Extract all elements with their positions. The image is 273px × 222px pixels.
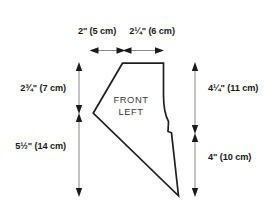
- pattern-diagram: 2" (5 cm) 2¼" (6 cm) 2¾" (7 cm) 5½" (14 …: [0, 0, 273, 222]
- left-upper-dimension-label: 2¾" (7 cm): [20, 83, 66, 93]
- right-upper-arrow-north-icon: [192, 62, 198, 71]
- top-right-dimension-label: 2¼" (6 cm): [129, 26, 175, 36]
- right-lower-arrow-north-icon: [192, 133, 198, 142]
- left-upper-arrow-south-icon: [76, 105, 82, 114]
- right-upper-dimension-label: 4¼" (11 cm): [208, 83, 258, 93]
- piece-label-line-1: FRONT: [113, 94, 148, 105]
- pattern-piece-outline: [93, 63, 178, 196]
- pattern-diagram-canvas: 2" (5 cm) 2¼" (6 cm) 2¾" (7 cm) 5½" (14 …: [0, 0, 273, 222]
- right-lower-dimension-line: [192, 133, 198, 197]
- top-dimension-group: 2" (5 cm) 2¼" (6 cm): [78, 26, 175, 54]
- piece-label-line-2: LEFT: [118, 106, 143, 117]
- left-lower-arrow-north-icon: [76, 113, 82, 122]
- left-lower-dimension-line: [76, 113, 82, 197]
- top-right-dimension-line: [123, 47, 165, 54]
- right-upper-arrow-south-icon: [192, 125, 198, 134]
- right-lower-dimension-label: 4" (10 cm): [208, 152, 251, 162]
- top-left-dimension-line: [90, 47, 126, 54]
- left-dimension-group: 2¾" (7 cm) 5½" (14 cm): [15, 62, 82, 197]
- right-dimension-group: 4¼" (11 cm) 4" (10 cm): [192, 62, 258, 197]
- left-lower-arrow-south-icon: [76, 188, 82, 197]
- top-right-arrow-east-icon: [155, 47, 164, 54]
- left-upper-arrow-north-icon: [76, 62, 82, 71]
- top-left-arrow-west-icon: [90, 47, 99, 54]
- left-lower-dimension-label: 5½" (14 cm): [15, 141, 66, 151]
- top-left-dimension-label: 2" (5 cm): [78, 26, 116, 36]
- right-lower-arrow-south-icon: [192, 188, 198, 197]
- right-upper-dimension-line: [192, 62, 198, 134]
- left-upper-dimension-line: [76, 62, 82, 114]
- piece-label-group: FRONT LEFT: [113, 94, 148, 117]
- top-right-arrow-west-icon: [123, 47, 132, 54]
